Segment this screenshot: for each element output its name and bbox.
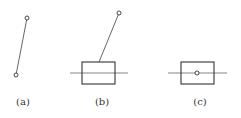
panel-b: (b): [70, 11, 128, 107]
endpoint-circle-b: [117, 11, 121, 15]
panel-c: (c): [168, 62, 227, 107]
panel-label-a: (a): [16, 96, 30, 107]
segment-a: [16, 18, 27, 75]
segment-b: [99, 13, 119, 62]
diagram-canvas: (a) (b) (c): [0, 0, 241, 118]
endpoint-circle-top-a: [25, 16, 29, 20]
endpoint-circle-bottom-a: [14, 73, 18, 77]
panel-a: (a): [14, 16, 30, 107]
panel-label-b: (b): [95, 96, 109, 107]
center-circle-c: [195, 71, 199, 75]
panel-label-c: (c): [193, 96, 207, 107]
